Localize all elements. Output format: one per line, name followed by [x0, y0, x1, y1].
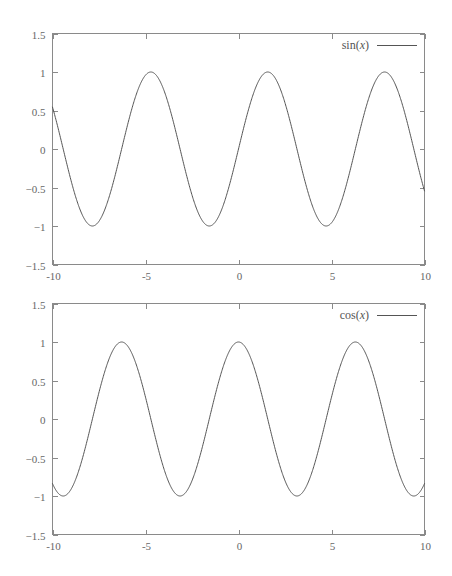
- x-tick-labels: ‐10‐50510: [46, 540, 431, 551]
- x-tick-label: 10: [420, 270, 432, 281]
- x-tick-label: ‐10: [46, 270, 61, 281]
- y-tick-label: −1: [34, 221, 46, 233]
- x-tick-label: 10: [420, 540, 432, 551]
- y-tick-label: −1: [34, 491, 46, 503]
- x-tick-marks: [54, 34, 426, 265]
- x-tick-label: ‐10: [46, 540, 61, 551]
- y-tick-label: −1.5: [26, 530, 46, 542]
- cos-curve-group: [53, 342, 425, 496]
- cos-legend: cos(x): [340, 308, 417, 322]
- x-tick-marks: [54, 304, 426, 535]
- x-tick-label: 5: [330, 540, 336, 551]
- sin-plot-panel: −1.5−1−0.500.511.5 ‐10‐50510 sin(x): [0, 18, 452, 280]
- cos-curve: [53, 342, 425, 496]
- x-tick-label: 0: [237, 540, 243, 551]
- figure-canvas: −1.5−1−0.500.511.5 ‐10‐50510 sin(x) −1.5…: [0, 0, 452, 576]
- cos-plot-panel: −1.5−1−0.500.511.5 ‐10‐50510 cos(x): [0, 288, 452, 550]
- legend-label-sin: sin(x): [342, 38, 369, 52]
- y-tick-label: 0: [40, 414, 46, 426]
- y-tick-label: −1.5: [26, 260, 46, 272]
- y-tick-labels: −1.5−1−0.500.511.5: [26, 299, 46, 542]
- cos-plot-svg: −1.5−1−0.500.511.5 ‐10‐50510 cos(x): [0, 288, 452, 550]
- y-tick-label: −0.5: [26, 183, 46, 195]
- y-tick-label: 0: [40, 144, 46, 156]
- y-tick-marks: [53, 305, 425, 536]
- sin-axis-group: −1.5−1−0.500.511.5 ‐10‐50510: [26, 29, 432, 281]
- x-tick-label: ‐5: [142, 540, 152, 551]
- x-tick-label: 0: [237, 270, 243, 281]
- cos-axis-group: −1.5−1−0.500.511.5 ‐10‐50510: [26, 299, 432, 551]
- y-tick-label: 1: [40, 67, 46, 79]
- legend-label-cos: cos(x): [340, 308, 369, 322]
- y-tick-label: 1: [40, 337, 46, 349]
- y-tick-label: 0.5: [32, 376, 46, 388]
- plot-frame: [53, 304, 425, 535]
- sin-legend: sin(x): [342, 38, 417, 52]
- y-tick-label: −0.5: [26, 453, 46, 465]
- x-tick-labels: ‐10‐50510: [46, 270, 431, 281]
- y-tick-labels: −1.5−1−0.500.511.5: [26, 29, 46, 272]
- x-tick-label: ‐5: [142, 270, 152, 281]
- figure-title: [0, 0, 452, 9]
- sin-curve-group: [53, 72, 425, 226]
- sin-plot-svg: −1.5−1−0.500.511.5 ‐10‐50510 sin(x): [0, 18, 452, 280]
- x-tick-label: 5: [330, 270, 336, 281]
- y-tick-label: 1.5: [32, 299, 46, 311]
- y-tick-label: 1.5: [32, 29, 46, 41]
- y-tick-label: 0.5: [32, 106, 46, 118]
- sin-curve: [53, 72, 425, 226]
